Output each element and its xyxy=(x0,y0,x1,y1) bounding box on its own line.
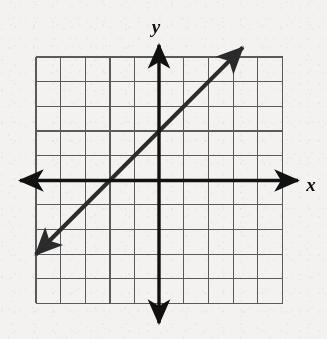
y-axis-label: y xyxy=(150,16,161,37)
coordinate-plane-graphic: y x xyxy=(0,0,327,339)
x-axis-label: x xyxy=(305,174,316,195)
plotted-line xyxy=(36,47,243,254)
figure-canvas: y x xyxy=(0,0,327,339)
